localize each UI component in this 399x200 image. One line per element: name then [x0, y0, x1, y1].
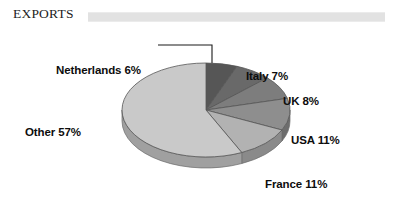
slice-label-usa: USA 11%	[291, 134, 340, 147]
slice-label-netherlands: Netherlands 6%	[56, 64, 141, 77]
header-divider-bar	[88, 12, 385, 22]
exports-pie-chart-figure: EXPORTS Netherlands 6% Italy 7% UK 8% US…	[0, 0, 399, 200]
page-title: EXPORTS	[13, 6, 74, 22]
slice-label-italy: Italy 7%	[246, 70, 288, 83]
slice-label-other: Other 57%	[25, 126, 81, 139]
slice-label-uk: UK 8%	[283, 95, 319, 108]
slice-label-france: France 11%	[265, 178, 327, 191]
chart-canvas: Netherlands 6% Italy 7% UK 8% USA 11% Fr…	[0, 26, 399, 200]
pie-chart-svg	[0, 26, 399, 200]
